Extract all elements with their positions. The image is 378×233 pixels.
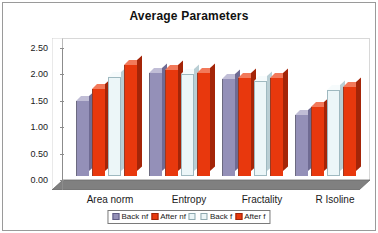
bar-fractality-after-nf [238, 78, 251, 176]
bar-front-face [254, 81, 267, 176]
bar-fractality-after-f [270, 78, 283, 176]
bar-entropy-back-nf [149, 73, 162, 176]
bar-front-face [238, 78, 251, 176]
bar-side-face [137, 56, 142, 171]
legend-swatch-icon-after-f [235, 213, 242, 220]
plot-area: 2.50 2.00 1.50 1.00 0.50 0.00 Area norm … [52, 38, 370, 190]
y-tick-label-0: 2.50 [6, 43, 48, 53]
bar-front-face [311, 107, 324, 176]
bar-front-face [270, 78, 283, 176]
bar-fractality-back-f [254, 81, 267, 176]
bar-side-face [356, 77, 361, 171]
bar-area-norm-after-nf [92, 89, 105, 176]
y-tick-label-5: 0.00 [6, 175, 48, 185]
legend-swatch-icon-back-nf [112, 213, 119, 220]
bar-side-face [210, 63, 215, 171]
bar-fractality-back-nf [222, 79, 235, 176]
bar-front-face [149, 73, 162, 176]
legend-swatch-icon-blank [189, 213, 196, 220]
legend-entry-blank [189, 213, 198, 220]
bar-r-isoline-after-nf [311, 107, 324, 176]
y-tick-label-2: 1.50 [6, 96, 48, 106]
bar-front-face [181, 74, 194, 176]
bar-area-norm-back-nf [76, 101, 89, 176]
bar-area-norm-after-f [124, 65, 137, 176]
bar-r-isoline-back-f [327, 90, 340, 176]
bar-front-face [76, 101, 89, 176]
legend-entry-after-nf: After nf [151, 212, 186, 221]
bar-entropy-after-nf [165, 70, 178, 176]
chart-window: Average Parameters 2.50 2.00 1.50 1.00 0… [0, 0, 378, 233]
bar-front-face [197, 73, 210, 176]
chart-legend: Back nf After nf Back f After f [107, 210, 270, 224]
x-category-label-0: Area norm [70, 194, 150, 205]
x-category-label-3: R Isoline [295, 194, 375, 205]
legend-label-after-nf: After nf [160, 212, 186, 221]
y-tick-label-1: 2.00 [6, 69, 48, 79]
bar-r-isoline-back-nf [295, 115, 308, 176]
legend-label-after-f: After f [244, 212, 265, 221]
legend-label-back-nf: Back nf [121, 212, 148, 221]
legend-entry-back-nf: Back nf [112, 212, 148, 221]
bar-front-face [92, 89, 105, 176]
bar-entropy-back-f [181, 74, 194, 176]
y-tick-label-4: 0.50 [6, 149, 48, 159]
bar-r-isoline-after-f [343, 87, 356, 176]
bar-front-face [295, 115, 308, 176]
chart-title: Average Parameters [0, 9, 378, 23]
bars-layer [52, 38, 370, 190]
legend-entry-back-f: Back f [201, 212, 232, 221]
y-tick-label-3: 1.00 [6, 122, 48, 132]
legend-swatch-icon-after-nf [151, 213, 158, 220]
bar-front-face [327, 90, 340, 176]
bar-front-face [124, 65, 137, 176]
x-category-label-1: Entropy [149, 194, 229, 205]
x-category-label-2: Fractality [222, 194, 302, 205]
legend-entry-after-f: After f [235, 212, 265, 221]
bar-front-face [108, 77, 121, 176]
bar-side-face [283, 69, 288, 171]
bar-front-face [222, 79, 235, 176]
legend-swatch-icon-back-f [201, 213, 208, 220]
bar-front-face [343, 87, 356, 176]
legend-label-back-f: Back f [210, 212, 232, 221]
bar-entropy-after-f [197, 73, 210, 176]
bar-area-norm-back-f [108, 77, 121, 176]
bar-front-face [165, 70, 178, 176]
